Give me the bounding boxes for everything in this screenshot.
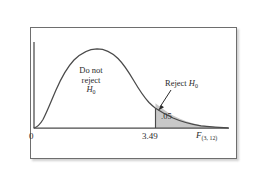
reject-label: Reject H0 (165, 79, 198, 90)
critical-value-tick-label: 3.49 (142, 131, 158, 141)
origin-tick-label: 0 (29, 131, 34, 141)
do-not-reject-line1: Do not (79, 65, 102, 75)
degrees-of-freedom-subscript: (3, 12) (202, 135, 218, 141)
figure-container: Do not reject H0 Reject H0 .05 0 3.49 F(… (0, 0, 261, 174)
annotation-arrow-line (160, 90, 171, 107)
null-hypothesis-subscript: 0 (93, 89, 96, 95)
reject-hypothesis-subscript: 0 (195, 83, 198, 89)
do-not-reject-label: Do not reject H0 (63, 66, 119, 96)
do-not-reject-line2: reject (82, 75, 101, 85)
reject-text: Reject (165, 78, 187, 88)
x-axis-label: F(3, 12) (196, 130, 217, 142)
alpha-area-label: .05 (161, 112, 172, 122)
